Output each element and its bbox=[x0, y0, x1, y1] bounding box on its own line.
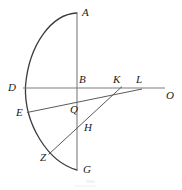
point-label-d: D bbox=[8, 82, 16, 93]
point-label-b: B bbox=[79, 74, 86, 85]
point-label-z: Z bbox=[40, 152, 46, 163]
arc-semicircle-adg bbox=[25, 13, 77, 170]
geometry-figure: A B D E G H K L O Q Z bbox=[0, 0, 182, 190]
point-label-k: K bbox=[113, 74, 120, 85]
point-label-g: G bbox=[83, 164, 91, 175]
figure-canvas bbox=[0, 0, 182, 190]
point-label-e: E bbox=[16, 107, 23, 118]
point-label-q: Q bbox=[70, 104, 78, 115]
scan-artifact bbox=[74, 185, 96, 187]
point-label-l: L bbox=[136, 74, 142, 85]
segment-el-secant bbox=[27, 89, 142, 113]
scan-artifact bbox=[86, 180, 95, 183]
point-label-h: H bbox=[84, 122, 92, 133]
point-label-a: A bbox=[82, 7, 89, 18]
point-label-o: O bbox=[166, 90, 174, 101]
